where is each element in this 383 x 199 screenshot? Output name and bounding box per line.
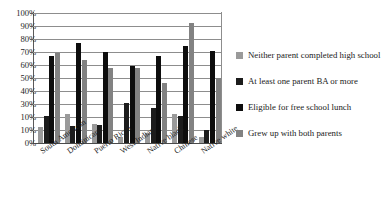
bar-group [145, 13, 167, 143]
bar-group [172, 13, 194, 143]
bar-group [199, 13, 221, 143]
legend-swatch-icon [236, 104, 243, 111]
bar [44, 116, 49, 143]
legend-item[interactable]: Grew up with both parents [236, 128, 342, 138]
legend-item[interactable]: At least one parent BA or more [236, 76, 358, 86]
bar [82, 60, 87, 143]
legend-label: Grew up with both parents [248, 128, 342, 138]
legend-swatch-icon [236, 78, 243, 85]
bar [38, 127, 43, 143]
bar-group [92, 13, 114, 143]
bar [210, 51, 215, 143]
bar [49, 56, 54, 143]
bar [108, 68, 113, 143]
legend-item[interactable]: Neither parent completed high school [236, 50, 380, 60]
bar [55, 53, 60, 143]
legend-swatch-icon [236, 52, 243, 59]
legend-swatch-icon [236, 130, 243, 137]
legend-label: Neither parent completed high school [248, 50, 380, 60]
bar [183, 46, 188, 144]
bar [156, 56, 161, 143]
bar [103, 52, 108, 143]
legend-item[interactable]: Eligible for free school lunch [236, 102, 351, 112]
legend-label: Eligible for free school lunch [248, 102, 351, 112]
legend-label: At least one parent BA or more [248, 76, 358, 86]
bar-chart-figure: 0%10%10%30%40%50%60%70%80%90%100% South … [0, 0, 383, 199]
bar-group [38, 13, 60, 143]
bar-group [118, 13, 140, 143]
bar [189, 23, 194, 143]
bar [135, 68, 140, 143]
